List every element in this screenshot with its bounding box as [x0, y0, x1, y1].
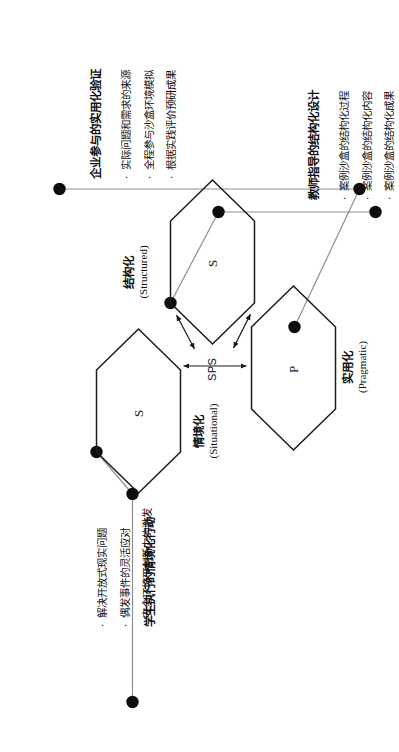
node-label-pragmatic-en: (Pragmatic) — [355, 312, 368, 422]
arrow-structured-pragmatic — [233, 314, 250, 348]
bullet-text: 解决开放式现实问题 — [95, 528, 107, 618]
bullet-marker-icon: · — [361, 191, 372, 200]
node-label-situational-en: (Situational) — [206, 386, 219, 476]
bullet-text: 案例沙盒的结构化成果 — [382, 91, 394, 191]
node-caption-situational: 情境化 (Situational) — [192, 386, 219, 476]
bullet-marker-icon: · — [119, 618, 130, 627]
bullet-text: 安全环境下创新力的激发 — [140, 508, 152, 618]
bullet-text: 案例沙盒的结构化内容 — [360, 91, 372, 191]
callout-bullets-pragmatic: ·实际问题和需求的来源 ·全程参与沙盒环境模拟 ·根据实践评价预研成果 — [120, 70, 188, 179]
node-label-structured-en: (Structured) — [136, 217, 149, 327]
bullet-marker-icon: · — [143, 170, 154, 179]
bullet-item: ·根据实践评价预研成果 — [165, 70, 176, 179]
callout-headline-pragmatic: 企业参与的实用化验证 — [86, 69, 102, 179]
bullet-marker-icon: · — [165, 170, 176, 179]
callout-bullets-situational: ·解决开放式现实问题 ·偶发事件的灵活应对 ·安全环境下创新力的激发 — [96, 508, 164, 627]
bullet-text: 根据实践评价预研成果 — [164, 70, 176, 170]
bullet-item: ·实际问题和需求的来源 — [120, 70, 131, 179]
bullet-marker-icon: · — [96, 618, 107, 627]
bullet-marker-icon: · — [383, 191, 394, 200]
leader-structured — [164, 206, 381, 309]
bullet-item: ·全程参与沙盒环境模拟 — [143, 70, 154, 179]
hexagon-glyph-pragmatic: P — [285, 366, 301, 373]
bullet-text: 全程参与沙盒环境模拟 — [142, 70, 154, 170]
arrow-structured-situational — [176, 315, 194, 349]
node-label-pragmatic-zh: 实用化 — [341, 312, 355, 422]
bullet-text: 偶发事件的灵活应对 — [118, 528, 130, 618]
bullet-item: ·偶发事件的灵活应对 — [119, 508, 130, 627]
bullet-item: ·安全环境下创新力的激发 — [141, 508, 152, 627]
bullet-marker-icon: · — [141, 618, 152, 627]
hexagon-glyph-structured: S — [204, 260, 220, 267]
callout-bullets-structured: ·案例沙盒的结构化过程 ·案例沙盒的结构化内容 ·案例沙盒的结构化成果 — [338, 91, 399, 200]
bullet-text: 案例沙盒的结构化过程 — [337, 91, 349, 191]
hexagon-glyph-situational: S — [130, 410, 146, 417]
sps-center-label: SPS — [205, 358, 217, 381]
bullet-item: ·案例沙盒的结构化内容 — [361, 91, 372, 200]
bullet-item: ·案例沙盒的结构化成果 — [383, 91, 394, 200]
bullet-item: ·解决开放式现实问题 — [96, 508, 107, 627]
node-caption-pragmatic: 实用化 (Pragmatic) — [341, 312, 368, 422]
bullet-marker-icon: · — [338, 191, 349, 200]
node-caption-structured: 结构化 (Structured) — [122, 217, 149, 327]
bullet-text: 实际问题和需求的来源 — [119, 70, 131, 170]
node-label-structured-zh: 结构化 — [122, 217, 136, 327]
bullet-marker-icon: · — [120, 170, 131, 179]
bullet-item: ·案例沙盒的结构化过程 — [338, 91, 349, 200]
callout-headline-structured: 教师指导的结构化设计 — [304, 90, 320, 200]
node-label-situational-zh: 情境化 — [192, 386, 206, 476]
